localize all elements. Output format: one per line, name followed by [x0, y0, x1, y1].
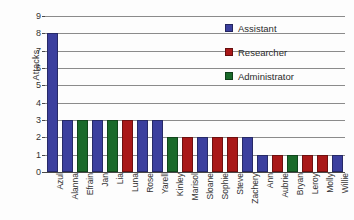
legend-label: Administrator — [238, 71, 294, 82]
y-axis-tick-label: 1 — [36, 150, 41, 159]
bar — [197, 137, 208, 172]
x-axis-labels: AzulAlannaEfrainJanLiaLunaRoseYarellKinl… — [45, 173, 345, 220]
x-axis-label: Lia — [116, 173, 125, 184]
y-axis-tick-label: 6 — [36, 64, 41, 73]
x-axis-label: Aubrie — [281, 173, 290, 198]
y-axis-tick-label: 7 — [36, 46, 41, 55]
bar — [167, 137, 178, 172]
x-axis-label: Kinley — [176, 173, 185, 196]
bar — [242, 137, 253, 172]
bar — [212, 137, 223, 172]
y-axis-tick-label: 3 — [36, 116, 41, 125]
bar — [62, 120, 73, 172]
x-axis-label: Leroy — [311, 173, 320, 194]
y-axis-tick-label: 0 — [36, 168, 41, 177]
x-axis-label: Bryan — [296, 173, 305, 195]
y-axis-tick-label: 9 — [36, 12, 41, 21]
legend-swatch-icon — [225, 72, 233, 80]
legend-item[interactable]: Assistant — [225, 19, 345, 37]
bar — [317, 155, 328, 172]
legend: AssistantResearcherAdministrator — [225, 19, 345, 91]
legend-label: Researcher — [238, 47, 287, 58]
legend-item[interactable]: Administrator — [225, 67, 345, 85]
x-axis-label: Ann — [266, 173, 275, 188]
x-axis-label: Marisol — [191, 173, 200, 200]
x-axis-label: Sophie — [221, 173, 230, 199]
x-axis-label: Steve — [236, 173, 245, 195]
bar — [137, 120, 148, 172]
y-axis-tick-label: 4 — [36, 98, 41, 107]
bar — [47, 33, 58, 172]
y-axis-tick-label: 5 — [36, 81, 41, 90]
x-axis-label: Jan — [101, 173, 110, 187]
bar — [107, 120, 118, 172]
x-axis-label: Molly — [326, 173, 335, 193]
x-axis-label: Yarell — [161, 173, 170, 194]
bar — [332, 155, 343, 172]
bar — [272, 155, 283, 172]
y-axis-tick-label: 2 — [36, 133, 41, 142]
bar — [257, 155, 268, 172]
bar — [227, 137, 238, 172]
bar-chart: Attacks 0123456789 AzulAlannaEfrainJanLi… — [0, 0, 354, 220]
y-axis-tick-label: 8 — [36, 29, 41, 38]
bar — [122, 120, 133, 172]
x-axis-label: Efrain — [86, 173, 95, 195]
x-axis-label: Willie — [341, 173, 350, 193]
legend-swatch-icon — [225, 48, 233, 56]
legend-swatch-icon — [225, 24, 233, 32]
bar — [302, 155, 313, 172]
bar — [92, 120, 103, 172]
legend-item[interactable]: Researcher — [225, 43, 345, 61]
legend-label: Assistant — [238, 23, 277, 34]
x-axis-label: Luna — [131, 173, 140, 192]
bar — [287, 155, 298, 172]
x-axis-label: Zachery — [251, 173, 260, 204]
bar — [77, 120, 88, 172]
x-axis-label: Azul — [56, 173, 65, 190]
x-axis-label: Rose — [146, 173, 155, 193]
bar — [152, 120, 163, 172]
x-axis-label: Alanna — [71, 173, 80, 199]
x-axis-label: Sloane — [206, 173, 215, 199]
bar — [182, 137, 193, 172]
